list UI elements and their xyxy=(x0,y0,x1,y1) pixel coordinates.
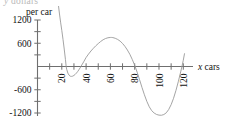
axes-group xyxy=(38,20,194,116)
chart-canvas: 1200600-600-1200 20406080100120 per car … xyxy=(0,0,225,125)
clipped-top-label: y dollars xyxy=(4,0,38,6)
y-tick-label: -600 xyxy=(14,85,32,95)
y-axis-tick-labels: 1200600-600-1200 xyxy=(9,15,31,118)
y-axis-title: per car xyxy=(26,7,53,17)
x-tick-label: 20 xyxy=(57,73,67,83)
x-axis-title-symbol: x xyxy=(197,62,203,72)
x-tick-label: 100 xyxy=(155,73,165,88)
chart-figure: y dollars 1200600-600-1200 2040608010012… xyxy=(0,0,225,125)
x-axis-title-word: cars xyxy=(205,62,221,72)
y-tick-label: -1200 xyxy=(9,108,31,118)
x-axis-tick-labels: 20406080100120 xyxy=(57,73,188,88)
x-tick-label: 40 xyxy=(82,73,92,83)
x-tick-label: 120 xyxy=(179,73,189,88)
x-tick-label: 60 xyxy=(106,73,116,83)
y-tick-label: 600 xyxy=(17,39,32,49)
data-curve-cost-per-car xyxy=(55,0,185,115)
